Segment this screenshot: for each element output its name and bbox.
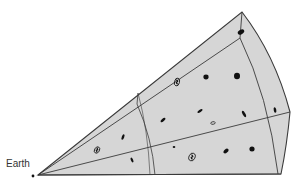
galaxy-elliptical (249, 147, 254, 152)
galaxy-elliptical (203, 75, 208, 80)
galaxy-elliptical (173, 146, 176, 148)
earth-dot (32, 175, 35, 178)
galaxy-elliptical (234, 73, 240, 79)
earth-label: Earth (6, 158, 30, 169)
cosmic-wedge-diagram (0, 0, 301, 189)
